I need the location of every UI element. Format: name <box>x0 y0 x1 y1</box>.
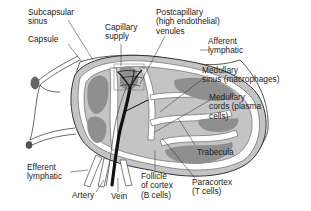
label-trabecula: Trabecula <box>197 148 234 157</box>
label-capsule: Capsule <box>28 35 58 44</box>
label-medullary-sinus: Medullary sinus (macrophages) <box>202 66 279 85</box>
label-postcapillary-venules: Postcapillary (high endothelial) venules <box>156 8 220 36</box>
label-efferent-lymphatic: Efferent lymphatic <box>27 163 62 182</box>
label-subcapsular-sinus: Subcapsular sinus <box>28 8 74 27</box>
vessel-end-lower <box>26 142 32 149</box>
label-paracortex: Paracortex (T cells) <box>192 178 232 197</box>
hilum-vessels <box>84 155 132 187</box>
label-vein: Vein <box>111 192 127 201</box>
label-artery: Artery <box>72 191 94 200</box>
label-follicle-of-cortex: Follicle of cortex (B cells) <box>141 172 173 200</box>
lymph-node-diagram: Subcapsular sinus Capsule Capillary supp… <box>0 0 311 211</box>
vessel-end-upper <box>31 77 39 89</box>
label-capillary-supply: Capillary supply <box>105 23 137 42</box>
label-medullary-cords: Medullary cords (plasma cells) <box>209 93 261 121</box>
label-afferent-lymphatic: Afferent lymphatic <box>208 37 243 56</box>
